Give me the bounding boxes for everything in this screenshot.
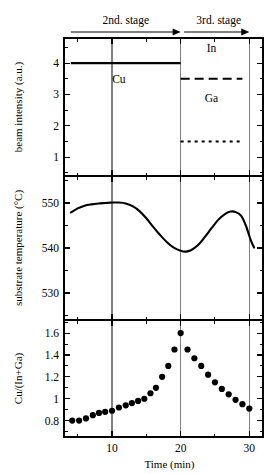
ratio-data-point (178, 330, 184, 336)
beam-series-label-in: In (207, 42, 217, 54)
ratio-data-point (102, 409, 108, 415)
ratio-data-point (135, 398, 141, 404)
cu-ratio-axis-label: Cu/(In+Ga) (12, 352, 25, 404)
xtick-label-20: 20 (175, 442, 187, 454)
beam-ytick-label-1: 1 (53, 151, 59, 163)
ratio-ytick-label-0.8: 0.8 (45, 415, 60, 427)
ratio-data-point (147, 390, 153, 396)
ratio-data-point (76, 418, 82, 424)
ratio-data-point (226, 391, 232, 397)
beam-ytick-label-4: 4 (53, 57, 59, 69)
xtick-label-10: 10 (106, 442, 118, 454)
beam-series-label-cu: Cu (112, 73, 126, 85)
beam-intensity-axis-label: beam intensity (a.u.) (12, 61, 25, 152)
ratio-data-point (212, 379, 218, 385)
ratio-data-point (90, 412, 96, 418)
ratio-data-point (198, 363, 204, 369)
substrate-temperature-axis-label: substrate temperature (°C) (12, 190, 25, 307)
ratio-data-point (96, 410, 102, 416)
ratio-ytick-label-1: 1 (53, 393, 59, 405)
ratio-data-point (165, 363, 171, 369)
stage-2-label: 2nd. stage (102, 14, 149, 27)
beam-ytick-label-2: 2 (53, 120, 59, 132)
ratio-data-point (69, 418, 75, 424)
ratio-data-point (153, 385, 159, 391)
ratio-data-point (171, 346, 177, 352)
figure-container: 2nd. stage 3rd. stage 1234 CuInGa beam i… (0, 0, 274, 474)
ratio-data-point (184, 346, 190, 352)
ratio-data-point (109, 408, 115, 414)
ratio-data-point (83, 415, 89, 421)
ratio-ytick-label-1.2: 1.2 (45, 371, 60, 383)
stage-3-label: 3rd. stage (196, 14, 241, 27)
ratio-data-point (116, 404, 122, 410)
temperature-ytick-label-550: 550 (42, 197, 60, 209)
temperature-ytick-label-540: 540 (42, 242, 60, 254)
ratio-data-point (219, 386, 225, 392)
ratio-data-point (159, 374, 165, 380)
temperature-ytick-label-530: 530 (42, 287, 60, 299)
ratio-data-point (123, 402, 129, 408)
ratio-data-point (205, 372, 211, 378)
xtick-label-30: 30 (244, 442, 256, 454)
ratio-data-point (232, 397, 238, 403)
ratio-data-point (141, 396, 147, 402)
ratio-data-point (246, 405, 252, 411)
ratio-ytick-label-1.6: 1.6 (45, 327, 60, 339)
beam-ytick-label-3: 3 (53, 88, 59, 100)
ratio-data-point (239, 401, 245, 407)
time-axis-label: Time (min) (144, 458, 194, 471)
beam-series-label-ga: Ga (205, 92, 218, 104)
ratio-data-point (191, 355, 197, 361)
multi-panel-chart: 2nd. stage 3rd. stage 1234 CuInGa beam i… (0, 0, 274, 474)
ratio-data-point (129, 400, 135, 406)
ratio-ytick-label-1.4: 1.4 (45, 349, 60, 361)
